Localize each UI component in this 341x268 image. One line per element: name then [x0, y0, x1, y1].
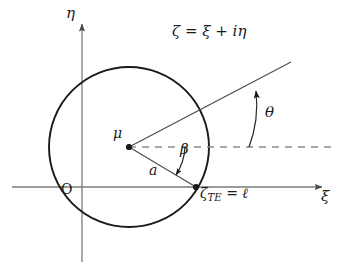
trailing-edge-subscript: TE — [208, 192, 222, 203]
figure-canvas: η ξ O μ a β θ ζTE = ℓ ζ = ξ + iη — [0, 0, 341, 268]
eta-axis-label: η — [66, 6, 75, 21]
trailing-edge-equals: = — [222, 185, 243, 201]
trailing-edge-symbol: ζ — [200, 185, 208, 201]
origin-label: O — [61, 182, 72, 196]
beta-angle-label: β — [180, 142, 189, 157]
circle-center-label: μ — [113, 126, 122, 140]
theta-arc — [249, 91, 257, 147]
trailing-edge-label: ζTE = ℓ — [200, 186, 248, 203]
xi-axis-label: ξ — [321, 189, 329, 204]
center-point-marker — [126, 144, 132, 150]
theta-angle-label: θ — [265, 105, 274, 120]
radius-label: a — [149, 163, 157, 177]
diagram-svg — [0, 0, 341, 268]
complex-variable-equation: ζ = ξ + iη — [172, 24, 246, 39]
trailing-edge-point-marker — [193, 184, 199, 190]
trailing-edge-value: ℓ — [242, 185, 248, 201]
